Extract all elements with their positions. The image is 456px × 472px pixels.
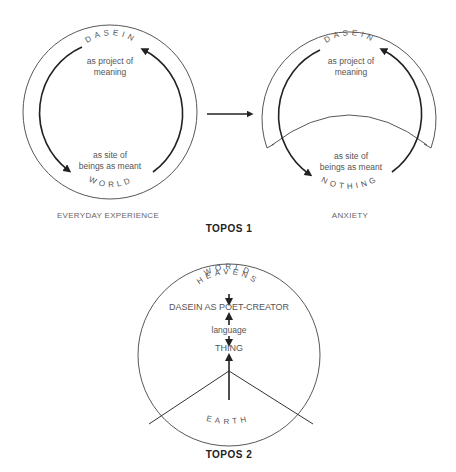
- arrow-down-left-icon: [279, 50, 320, 174]
- anxiety-caption: ANXIETY: [332, 211, 369, 220]
- world-arc-label: WORLD: [87, 175, 134, 189]
- site-of-beings-line1: as site of: [334, 151, 369, 161]
- dasein-arc-label: DASEIN: [84, 28, 139, 45]
- site-of-beings-line1: as site of: [93, 150, 128, 160]
- language-label: language: [212, 325, 247, 335]
- topos-1-title: TOPOS 1: [206, 223, 253, 234]
- project-of-meaning-line2: meaning: [94, 67, 127, 77]
- project-of-meaning-line1: as project of: [87, 56, 134, 66]
- anxiety-diagram: DASEIN as project of meaning as site of …: [262, 28, 436, 220]
- topos-2-diagram: WORLD HEAVENS DASEIN AS POET-CREATOR lan…: [138, 262, 320, 446]
- site-of-beings-line2: beings as meant: [320, 162, 383, 172]
- topos-2-title: TOPOS 2: [206, 449, 253, 460]
- diagram-canvas: DASEIN as project of meaning as site of …: [0, 0, 456, 472]
- project-of-meaning-line1: as project of: [328, 56, 375, 66]
- nothing-intrusion-arc: [272, 115, 427, 145]
- earth-arc-label: EARTH: [206, 414, 251, 426]
- arrow-up-right-icon: [383, 50, 422, 172]
- arrow-up-right-icon: [144, 50, 183, 172]
- outer-broken-arc: [262, 32, 436, 148]
- nothing-arc-label: NOTHING: [320, 174, 380, 191]
- site-of-beings-line2: beings as meant: [79, 161, 142, 171]
- arrow-down-left-icon: [40, 47, 82, 170]
- everyday-experience-caption: EVERYDAY EXPERIENCE: [57, 211, 159, 220]
- project-of-meaning-line2: meaning: [335, 67, 368, 77]
- dasein-poet-creator-label: DASEIN AS POET-CREATOR: [169, 302, 290, 312]
- outer-circle: [23, 25, 197, 199]
- dasein-arc-label: DASEIN: [323, 28, 378, 45]
- thing-label: THING: [215, 343, 243, 353]
- earth-line-left: [149, 371, 229, 424]
- everyday-experience-diagram: DASEIN as project of meaning as site of …: [23, 25, 197, 220]
- arc-end-right: [424, 144, 431, 148]
